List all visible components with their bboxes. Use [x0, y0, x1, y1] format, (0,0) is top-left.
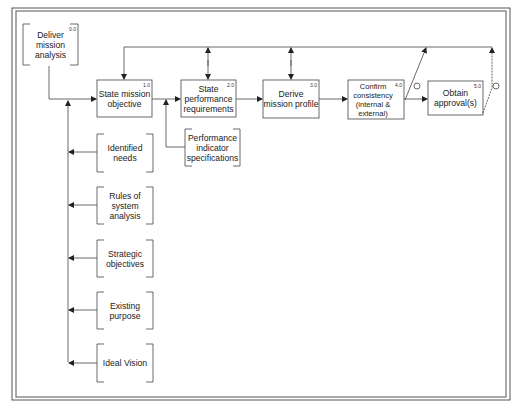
input-label: Strategic objectives — [97, 240, 153, 277]
process-number: 5.0 — [474, 83, 481, 89]
output-label: Performance indicator specifications — [185, 129, 240, 166]
node-number: 0.0 — [69, 26, 76, 32]
process-number: 1.0 — [143, 82, 150, 88]
input-label: Ideal Vision — [97, 344, 153, 382]
input-label: Identified needs — [97, 134, 153, 172]
process-label: Confirm consistency (internal & external… — [348, 80, 398, 119]
process-number: 4.0 — [395, 82, 402, 88]
input-label: Existing purpose — [97, 292, 153, 329]
process-number: 3.0 — [310, 82, 317, 88]
input-label: Rules of system analysis — [97, 187, 153, 224]
process-number: 2.0 — [227, 82, 234, 88]
